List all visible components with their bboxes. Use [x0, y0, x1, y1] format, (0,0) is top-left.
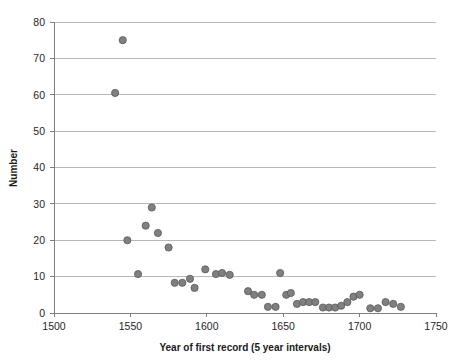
data-point [312, 298, 319, 305]
scatter-chart: 01020304050607080 1500155016001650170017… [0, 0, 466, 362]
data-point [344, 298, 351, 305]
y-tick-label-10: 10 [33, 270, 45, 282]
data-point [264, 303, 271, 310]
data-point [277, 269, 284, 276]
y-tick-label-80: 80 [33, 16, 45, 28]
data-point [258, 291, 265, 298]
y-axis-tick-labels: 01020304050607080 [33, 16, 45, 319]
x-tick-label-1500: 1500 [42, 320, 66, 332]
y-tick-label-50: 50 [33, 125, 45, 137]
y-tick-label-0: 0 [39, 307, 45, 319]
y-tick-label-60: 60 [33, 89, 45, 101]
data-point [226, 271, 233, 278]
data-point [179, 279, 186, 286]
data-point [119, 37, 126, 44]
data-point [112, 89, 119, 96]
data-point [272, 303, 279, 310]
x-axis-title: Year of first record (5 year intervals) [159, 342, 330, 353]
data-point [382, 298, 389, 305]
x-tick-label-1700: 1700 [348, 320, 372, 332]
x-tick-label-1600: 1600 [195, 320, 219, 332]
data-point [202, 266, 209, 273]
data-point [134, 270, 141, 277]
data-point [165, 244, 172, 251]
y-tick-label-70: 70 [33, 52, 45, 64]
y-tick-label-20: 20 [33, 234, 45, 246]
data-point [374, 305, 381, 312]
data-point [186, 275, 193, 282]
gridlines [54, 22, 436, 313]
data-point [218, 269, 225, 276]
data-point [287, 289, 294, 296]
data-point [124, 237, 131, 244]
data-point [356, 291, 363, 298]
data-point [154, 229, 161, 236]
y-tick-label-40: 40 [33, 161, 45, 173]
x-tick-label-1650: 1650 [272, 320, 296, 332]
data-point [148, 204, 155, 211]
data-point [191, 284, 198, 291]
x-axis-tick-labels: 150015501600165017001750 [42, 320, 448, 332]
data-point [390, 300, 397, 307]
y-axis-title: Number [8, 149, 19, 187]
x-tick-label-1750: 1750 [424, 320, 448, 332]
data-point [397, 303, 404, 310]
y-tick-label-30: 30 [33, 198, 45, 210]
axis-tick-marks [50, 22, 436, 317]
x-tick-label-1550: 1550 [119, 320, 143, 332]
chart-canvas: 01020304050607080 1500155016001650170017… [0, 0, 466, 362]
data-points [112, 37, 405, 312]
data-point [171, 279, 178, 286]
data-point [251, 291, 258, 298]
data-point [142, 222, 149, 229]
data-point [367, 305, 374, 312]
